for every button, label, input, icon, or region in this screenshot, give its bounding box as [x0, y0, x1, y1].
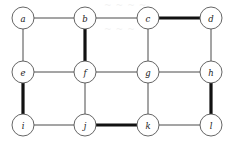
node-label-c: c: [146, 14, 151, 24]
node-label-e: e: [20, 68, 25, 78]
graph-canvas: ~ ~ ~ ~ ~ ~ ~ abcdefghijkl: [0, 0, 233, 142]
node-label-d: d: [208, 14, 214, 24]
graph-node-h: h: [200, 61, 222, 83]
graph-node-b: b: [74, 7, 96, 29]
graph-node-l: l: [200, 114, 222, 136]
node-label-l: l: [210, 121, 213, 131]
graph-node-e: e: [12, 61, 34, 83]
graph-node-k: k: [137, 114, 159, 136]
graph-node-a: a: [12, 7, 34, 29]
node-label-i: i: [22, 121, 25, 131]
node-label-h: h: [208, 68, 213, 78]
graph-figure: ~ ~ ~ ~ ~ ~ ~ abcdefghijkl: [0, 0, 233, 142]
edge-layer: [23, 18, 211, 125]
graph-node-d: d: [200, 7, 222, 29]
node-label-g: g: [145, 68, 151, 78]
graph-node-c: c: [137, 7, 159, 29]
node-label-b: b: [82, 14, 87, 24]
node-label-a: a: [20, 14, 25, 24]
graph-node-f: f: [74, 61, 96, 83]
graph-node-g: g: [137, 61, 159, 83]
graph-node-j: j: [74, 114, 96, 136]
node-label-k: k: [145, 121, 150, 131]
scan-artifact-top: ~ ~ ~ ~: [104, 0, 147, 10]
graph-node-i: i: [12, 114, 34, 136]
scan-artifact-second: ~ ~ ~: [104, 24, 135, 34]
